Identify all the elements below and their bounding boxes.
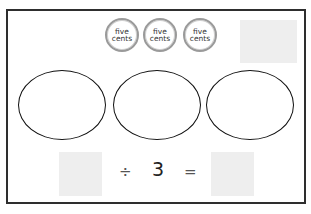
- coin-label-line2: cents: [150, 35, 170, 43]
- group-circle-1[interactable]: [18, 70, 106, 140]
- five-cent-coin-3[interactable]: five cents: [183, 18, 217, 52]
- dividend-answer-box[interactable]: [59, 152, 102, 196]
- group-circle-2[interactable]: [113, 70, 201, 140]
- coin-source-box[interactable]: [240, 20, 297, 63]
- equals-sign: =: [184, 163, 197, 181]
- divisor-number: 3: [152, 158, 164, 180]
- five-cent-coin-2[interactable]: five cents: [143, 18, 177, 52]
- group-circle-3[interactable]: [206, 70, 294, 140]
- coin-label-line2: cents: [112, 35, 132, 43]
- divide-sign: ÷: [119, 163, 132, 181]
- five-cent-coin-1[interactable]: five cents: [105, 18, 139, 52]
- coin-label-line2: cents: [190, 35, 210, 43]
- quotient-answer-box[interactable]: [211, 152, 254, 196]
